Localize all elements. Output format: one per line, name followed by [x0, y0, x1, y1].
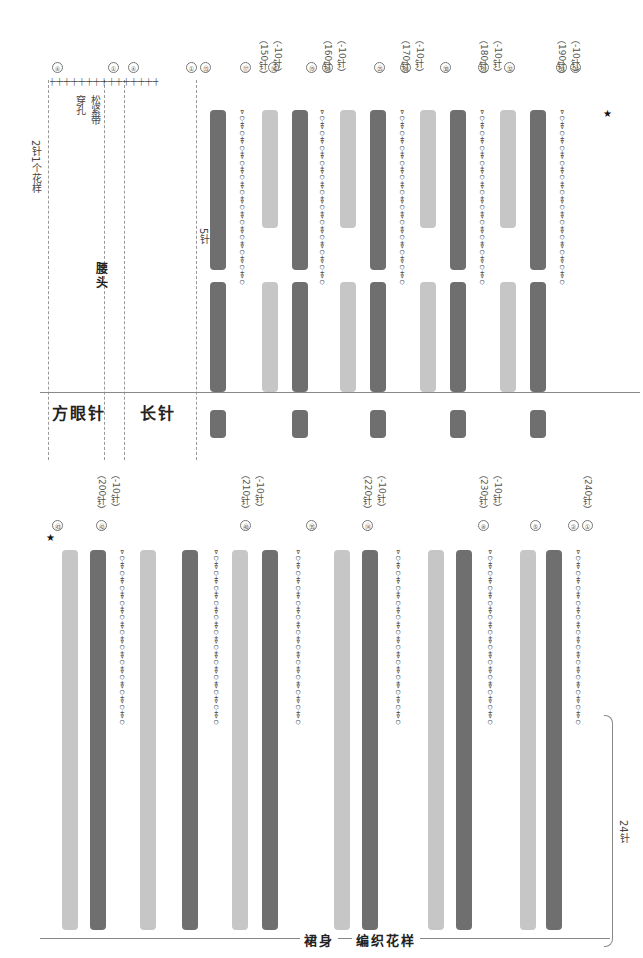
count-text: （210针） — [241, 470, 251, 514]
shell-stitch-column: ⊳◯+⊳◯+⊳◯+⊳◯+⊳◯+⊳◯+⊳◯+⊳◯+⊳◯+⊳◯+⊳◯+⊳◯ — [572, 550, 582, 930]
waistband-stitch-column: ┼╌┼╌┼╌┼╌┼╌┼╌┼╌┼╌┼╌┼╌┼╌┼╌┼╌┼╌┼ — [50, 78, 200, 90]
guide-line — [124, 80, 125, 460]
skirt-body-chart-panel: （200针） （-10针） （210针） （-10针） （220针） （-10针… — [0, 460, 643, 958]
waistband-chart-panel: （150针） （-10针） （160针） （-10针） （170针） （-10针… — [0, 0, 643, 460]
row-marker: ⑧ — [478, 520, 489, 531]
guide-line — [48, 80, 49, 460]
shell-stitch-column: ⊳◯+⊳◯+⊳◯+⊳◯+⊳◯+⊳◯+⊳◯+⊳◯+⊳◯+⊳◯+⊳◯+⊳◯ — [556, 110, 566, 440]
count-text: （230针） — [479, 470, 489, 514]
shell-stitch-column: ⊳◯+⊳◯+⊳◯+⊳◯+⊳◯+⊳◯+⊳◯+⊳◯+⊳◯+⊳◯+⊳◯+⊳◯ — [210, 550, 220, 930]
twenty-four-stitch-bracket — [604, 715, 613, 947]
shell-column-dark — [530, 200, 546, 270]
shell-column-dark — [370, 200, 386, 270]
shell-column-dark — [450, 282, 466, 392]
shell-column-light — [262, 110, 278, 228]
stitch-change-200: （-10针） — [110, 470, 120, 512]
stitch-change-220: （-10针） — [376, 470, 386, 512]
row-marker: ⑲ — [306, 62, 317, 73]
stitch-count-240: （240针） — [582, 470, 592, 514]
shell-stitch-column: ⊳◯+⊳◯+⊳◯+⊳◯+⊳◯+⊳◯+⊳◯+⊳◯+⊳◯+⊳◯+⊳◯+⊳◯ — [316, 110, 326, 440]
shell-column-light — [232, 550, 248, 930]
shell-stitch-column: ⊳◯+⊳◯+⊳◯+⊳◯+⊳◯+⊳◯+⊳◯+⊳◯+⊳◯+⊳◯+⊳◯+⊳◯ — [236, 110, 246, 440]
stitch-count-210: （210针） — [240, 470, 250, 514]
shell-column-dark — [546, 550, 562, 930]
twenty-four-stitch-label: 24针 — [616, 820, 631, 843]
shell-column-dark — [530, 410, 546, 438]
change-text: （-10针） — [493, 470, 503, 512]
guide-line — [196, 80, 197, 460]
stitch-count-220: （220针） — [362, 470, 372, 514]
shell-stitch-column: ⊳◯+⊳◯+⊳◯+⊳◯+⊳◯+⊳◯+⊳◯+⊳◯+⊳◯+⊳◯+⊳◯+⊳◯ — [116, 550, 126, 930]
count-text: （150针） — [259, 35, 269, 79]
stitch-count-200: （200针） — [96, 470, 106, 514]
shell-column-light — [420, 110, 436, 228]
row-marker: ㉚ — [440, 62, 451, 73]
shell-stitch-column: ⊳◯+⊳◯+⊳◯+⊳◯+⊳◯+⊳◯+⊳◯+⊳◯+⊳◯+⊳◯+⊳◯+⊳◯ — [476, 110, 486, 440]
pattern-label: 编织花样 — [352, 930, 420, 949]
row-marker: ① — [186, 62, 197, 73]
shell-column-dark — [182, 550, 198, 930]
shell-column-dark — [210, 200, 226, 270]
row-marker: ㉞ — [570, 62, 581, 73]
shell-column-light — [520, 550, 536, 930]
row-marker: ⑱ — [268, 62, 279, 73]
shell-column-light — [62, 550, 78, 930]
stitch-change-230: （-10针） — [492, 470, 502, 512]
count-text: （200针） — [97, 470, 107, 514]
shell-column-light — [262, 282, 278, 392]
change-text: （-10针） — [415, 35, 425, 77]
shell-stitch-column: ⊳◯+⊳◯+⊳◯+⊳◯+⊳◯+⊳◯+⊳◯+⊳◯+⊳◯+⊳◯+⊳◯+⊳◯ — [392, 550, 402, 930]
row-marker: ⑤ — [530, 520, 541, 531]
shell-column-dark — [370, 282, 386, 392]
row-marker: ㊷ — [96, 520, 107, 531]
row-marker: ㉕ — [374, 62, 385, 73]
stitch-change-210: （-10针） — [254, 470, 264, 512]
row-marker: ⑰ — [240, 62, 251, 73]
stitch-count-230: （230针） — [478, 470, 488, 514]
shell-column-dark — [210, 410, 226, 438]
shell-stitch-column: ⊳◯+⊳◯+⊳◯+⊳◯+⊳◯+⊳◯+⊳◯+⊳◯+⊳◯+⊳◯+⊳◯+⊳◯ — [396, 110, 406, 440]
row-marker: ⑭ — [362, 520, 373, 531]
shell-column-light — [420, 282, 436, 392]
shell-stitch-column: ⊳◯+⊳◯+⊳◯+⊳◯+⊳◯+⊳◯+⊳◯+⊳◯+⊳◯+⊳◯+⊳◯+⊳◯ — [292, 550, 302, 930]
row-marker: ⑳ — [322, 62, 333, 73]
stitch-change-170: （-10针） — [414, 35, 424, 77]
star-marker: ★ — [46, 532, 55, 543]
row-marker: ㉟ — [306, 520, 317, 531]
shell-column-light — [334, 550, 350, 930]
shell-column-dark — [362, 550, 378, 930]
five-stitches-label: 5针 — [196, 228, 211, 244]
shell-column-dark — [530, 282, 546, 392]
shell-column-dark — [262, 550, 278, 930]
row-marker: ㊵ — [240, 520, 251, 531]
count-text: （240针） — [583, 470, 593, 514]
change-text: （-10针） — [377, 470, 387, 512]
row-marker: ㉝ — [556, 62, 567, 73]
shell-stitch-column: ⊳◯+⊳◯+⊳◯+⊳◯+⊳◯+⊳◯+⊳◯+⊳◯+⊳◯+⊳◯+⊳◯+⊳◯ — [484, 550, 494, 930]
shell-column-dark — [90, 550, 106, 930]
shell-column-dark — [292, 410, 308, 438]
row-marker: ② — [568, 520, 579, 531]
row-marker: ④ — [52, 62, 63, 73]
bottom-bracket — [40, 392, 640, 393]
row-marker: ㉛ — [478, 62, 489, 73]
shell-column-dark — [292, 200, 308, 270]
change-text: （-10针） — [255, 470, 265, 512]
skirt-body-label: 裙身 — [300, 930, 338, 949]
change-text: （-10针） — [111, 470, 121, 512]
row-marker: ④ — [128, 62, 139, 73]
row-marker: ⑬ — [200, 62, 211, 73]
shell-column-dark — [292, 282, 308, 392]
shell-column-dark — [370, 410, 386, 438]
change-text: （-10针） — [337, 35, 347, 77]
elastic-hole-label: 松紧带 穿孔 — [72, 95, 102, 125]
shell-column-dark — [456, 550, 472, 930]
row-marker: ㊸ — [52, 520, 63, 531]
shell-column-light — [340, 110, 356, 228]
shell-column-light — [140, 550, 156, 930]
double-crochet-label: 长针 — [140, 400, 176, 424]
row-marker: ㉖ — [400, 62, 411, 73]
star-marker: ★ — [603, 108, 612, 119]
shell-column-light — [340, 282, 356, 392]
row-marker: ㉜ — [504, 62, 515, 73]
